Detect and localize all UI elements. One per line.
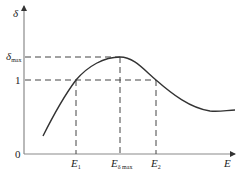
- y-axis-label: δ: [13, 8, 18, 19]
- x-axis-label: E: [224, 158, 231, 169]
- origin-label: 0: [15, 149, 21, 160]
- dashed-guides: [25, 57, 156, 154]
- unity-label: 1: [15, 75, 21, 86]
- edmax-label: Eδ max: [111, 158, 132, 170]
- e2-label: E2: [151, 158, 161, 170]
- chart-canvas: [0, 0, 238, 179]
- e1-label: E1: [71, 158, 81, 170]
- delta-curve: [43, 57, 235, 136]
- delta-max-label: δmax: [6, 51, 21, 63]
